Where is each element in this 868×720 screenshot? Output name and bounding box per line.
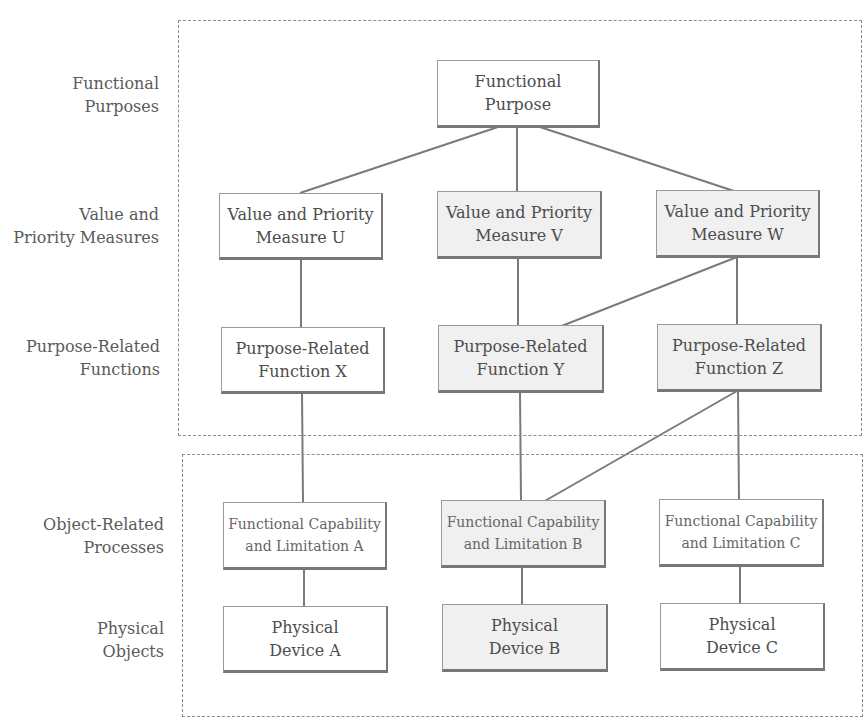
node-function-y: Purpose-Related Function Y <box>438 325 604 393</box>
level-label-functional-purposes: Functional Purposes <box>0 72 159 118</box>
node-measure-w: Value and Priority Measure W <box>656 190 820 258</box>
node-device-b: Physical Device B <box>442 604 608 672</box>
level-label-purpose-related-functions: Purpose-Related Functions <box>0 335 160 381</box>
node-measure-v: Value and Priority Measure V <box>437 191 602 259</box>
node-measure-u: Value and Priority Measure U <box>219 193 383 260</box>
node-function-x: Purpose-Related Function X <box>221 327 385 394</box>
level-label-physical-objects: Physical Objects <box>0 617 164 663</box>
level-label-value-priority-measures: Value and Priority Measures <box>0 203 159 249</box>
physical-region-box <box>182 454 863 717</box>
node-capability-c: Functional Capability and Limitation C <box>659 499 824 567</box>
level-label-object-related-processes: Object-Related Processes <box>0 513 164 559</box>
node-capability-a: Functional Capability and Limitation A <box>223 502 387 570</box>
node-functional-purpose: Functional Purpose <box>437 60 600 128</box>
node-device-c: Physical Device C <box>660 603 825 671</box>
node-function-z: Purpose-Related Function Z <box>657 324 822 392</box>
node-capability-b: Functional Capability and Limitation B <box>441 500 606 568</box>
node-device-a: Physical Device A <box>223 606 388 673</box>
